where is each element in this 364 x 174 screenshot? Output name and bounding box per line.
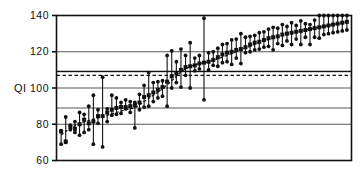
error-bar-endpoint (216, 64, 220, 68)
error-bar-endpoint (308, 43, 312, 47)
data-point-marker (267, 36, 271, 40)
data-point-marker (128, 104, 132, 108)
error-bar-endpoint (64, 115, 68, 119)
error-bar-endpoint (221, 43, 225, 47)
data-point-marker (188, 64, 192, 68)
data-point-marker (262, 38, 266, 42)
error-bar-endpoint (165, 104, 169, 108)
error-bar-endpoint (290, 21, 294, 25)
data-point-marker (96, 114, 100, 118)
error-bar-endpoint (161, 79, 165, 83)
error-bar-endpoint (78, 133, 82, 137)
error-bar-endpoint (207, 68, 211, 72)
error-bar-endpoint (96, 108, 100, 112)
error-bar-endpoint (96, 121, 100, 125)
error-bar-endpoint (294, 24, 298, 28)
error-bar-endpoint (202, 98, 206, 102)
data-point-marker (207, 60, 211, 64)
error-bar-endpoint (299, 19, 303, 23)
data-point-marker (331, 23, 335, 27)
error-bar-endpoint (142, 105, 146, 109)
error-bar-endpoint (188, 41, 192, 45)
error-bar-endpoint (257, 31, 261, 35)
data-point-marker (110, 108, 114, 112)
error-bar-endpoint (147, 104, 151, 108)
error-bar-endpoint (276, 26, 280, 30)
data-point-marker (68, 125, 72, 129)
error-bar-endpoint (244, 51, 248, 55)
data-point-marker (220, 52, 224, 56)
data-point-marker (248, 43, 252, 47)
error-bar-endpoint (170, 49, 174, 53)
error-bar-endpoint (336, 30, 340, 34)
data-point-marker (184, 65, 188, 69)
error-bar-endpoint (138, 92, 142, 96)
y-tick-label-60: 60 (36, 154, 49, 166)
error-bar-endpoint (225, 42, 229, 46)
data-point-marker (179, 68, 183, 72)
error-bar-endpoint (239, 32, 243, 36)
data-point-marker (317, 25, 321, 29)
error-bar-endpoint (128, 111, 132, 115)
data-point-marker (243, 45, 247, 49)
data-point-marker (271, 35, 275, 39)
y-tick-label-100: 100 (30, 82, 49, 94)
error-bar-endpoint (262, 30, 266, 34)
data-point-marker (211, 58, 215, 62)
data-point-marker (216, 55, 220, 59)
error-bar-endpoint (147, 71, 151, 75)
error-bar-endpoint (202, 16, 206, 20)
y-tick-label-120: 120 (30, 45, 49, 57)
error-bar-endpoint (290, 43, 294, 47)
error-bar-endpoint (230, 63, 234, 67)
y-tick-label-80: 80 (36, 118, 49, 130)
error-bar-endpoint (105, 120, 109, 124)
error-bar-endpoint (322, 33, 326, 37)
error-bar-endpoint (105, 107, 109, 111)
error-bar-endpoint (179, 85, 183, 89)
error-bar-endpoint (308, 23, 312, 27)
error-bar-endpoint (285, 24, 289, 28)
data-point-marker (239, 47, 243, 51)
data-point-marker (165, 80, 169, 84)
error-bar-endpoint (253, 48, 257, 52)
error-bar-endpoint (156, 96, 160, 100)
error-bar-endpoint (73, 120, 77, 124)
data-point-marker (64, 139, 68, 143)
error-bar-endpoint (216, 46, 220, 50)
data-point-marker (230, 50, 234, 54)
data-point-marker (78, 122, 82, 126)
error-bar-endpoint (276, 42, 280, 46)
data-point-marker (303, 28, 307, 32)
data-point-marker (119, 105, 123, 109)
error-bar-endpoint (239, 62, 243, 66)
data-point-marker (197, 62, 201, 66)
error-bar-endpoint (197, 53, 201, 57)
error-bar-endpoint (101, 75, 105, 79)
error-bar-endpoint (128, 100, 132, 104)
error-bar-endpoint (174, 81, 178, 85)
error-bar-endpoint (234, 37, 238, 41)
data-point-marker (147, 93, 151, 97)
error-bar-endpoint (230, 38, 234, 42)
error-bar-endpoint (101, 145, 105, 149)
y-axis-label: QI (14, 82, 27, 94)
error-bar-endpoint (184, 73, 188, 77)
error-bar-endpoint (82, 112, 86, 116)
data-point-marker (82, 118, 86, 122)
data-point-marker (87, 121, 91, 125)
error-bar-endpoint (59, 142, 63, 146)
error-bar-endpoint (78, 111, 82, 115)
error-bar-endpoint (151, 100, 155, 104)
data-point-marker (114, 106, 118, 110)
error-bar-endpoint (87, 128, 91, 132)
error-bar-endpoint (267, 27, 271, 31)
data-point-marker (299, 29, 303, 33)
data-point-marker (151, 91, 155, 95)
error-bar-endpoint (244, 35, 248, 39)
error-bar-endpoint (188, 86, 192, 90)
data-point-marker (202, 61, 206, 65)
data-point-marker (142, 95, 146, 99)
error-bar-endpoint (91, 93, 95, 97)
error-bar-endpoint (257, 47, 261, 51)
